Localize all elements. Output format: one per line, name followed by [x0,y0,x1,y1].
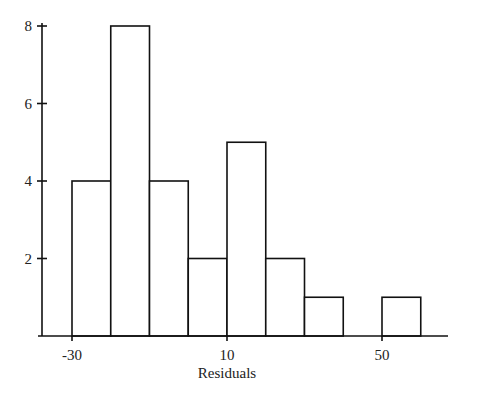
histogram-bar [227,142,266,336]
y-tick-label: 6 [25,96,33,112]
histogram-bar [150,181,189,336]
histogram-bar [305,297,344,336]
bars-group [72,26,421,336]
y-ticks: 2468 [25,18,48,267]
histogram-bar [382,297,421,336]
x-axis-title: Residuals [198,365,256,381]
histogram-bar [266,259,305,337]
y-tick-label: 4 [25,173,33,189]
x-ticks: -301050 [62,336,390,363]
y-tick-label: 8 [25,18,33,34]
x-tick-label: 10 [220,347,235,363]
x-tick-label: 50 [375,347,390,363]
histogram-chart: 2468 -301050 Residuals [0,0,477,396]
y-tick-label: 2 [25,251,33,267]
histogram-bar [188,259,227,337]
histogram-bar [72,181,111,336]
x-tick-label: -30 [62,347,82,363]
histogram-bar [111,26,150,336]
